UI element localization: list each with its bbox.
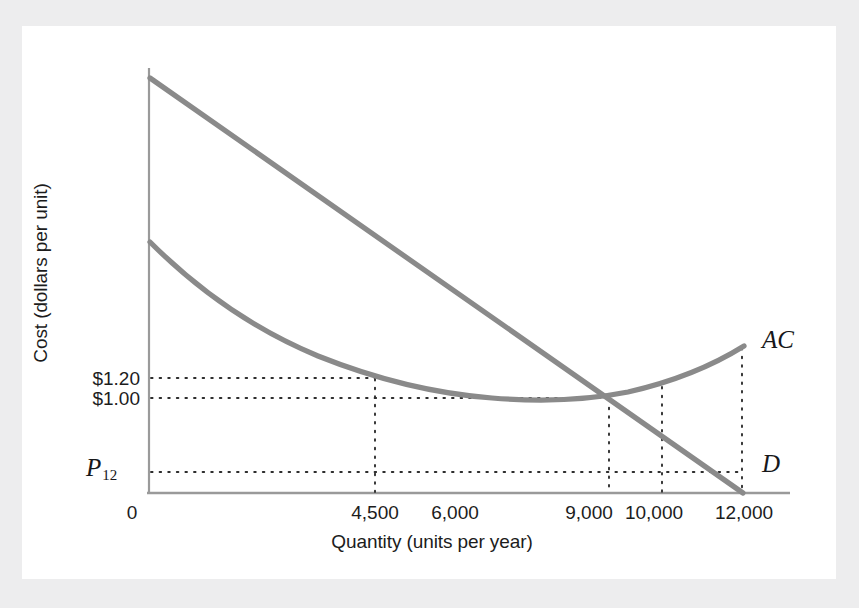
- chart-plot-area: Cost (dollars per unit) Quantity (units …: [22, 26, 836, 579]
- figure-panel: Cost (dollars per unit) Quantity (units …: [22, 26, 836, 579]
- chart-axes: [147, 68, 790, 493]
- p12-base: P: [86, 454, 101, 481]
- x-tick-label-4500: 4,500: [335, 502, 415, 524]
- x-tick-label-12000: 12,000: [700, 502, 788, 524]
- guide-lines: [151, 348, 742, 492]
- scanned-page: Cost (dollars per unit) Quantity (units …: [0, 0, 859, 608]
- x-axis-title: Quantity (units per year): [272, 531, 592, 553]
- average-cost-curve-ac: [150, 242, 744, 400]
- x-tick-label-10000: 10,000: [610, 502, 698, 524]
- y-tick-label-1-00: $1.00: [60, 388, 140, 410]
- curve-label-ac: AC: [762, 326, 794, 354]
- curve-label-d: D: [762, 450, 780, 478]
- chart-svg: [22, 26, 836, 579]
- y-axis-title: Cost (dollars per unit): [30, 123, 52, 423]
- y-tick-label-1-20: $1.20: [60, 368, 140, 390]
- p12-subscript: 12: [102, 467, 117, 483]
- x-tick-label-0: 0: [112, 502, 152, 524]
- y-tick-label-p12: P12: [86, 454, 116, 482]
- demand-curve-d: [150, 78, 743, 493]
- x-tick-label-6000: 6,000: [415, 502, 495, 524]
